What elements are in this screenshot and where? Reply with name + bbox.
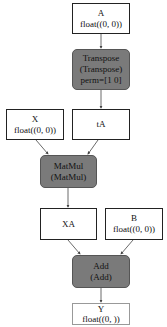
add-op: (Add)	[90, 272, 112, 283]
node-x[interactable]: X float((0, 0))	[6, 109, 64, 140]
transpose-op: (Transpose)	[80, 64, 123, 75]
node-a[interactable]: A float((0, 0))	[72, 3, 130, 34]
edge-ta-matmul	[88, 140, 98, 154]
node-y-type: float((0, ))	[82, 314, 119, 324]
node-x-name: X	[32, 114, 39, 125]
node-ta[interactable]: tA	[72, 109, 130, 140]
transpose-attr: perm=[1 0]	[81, 75, 122, 86]
node-add[interactable]: Add (Add)	[72, 255, 130, 288]
node-xa-name: XA	[62, 219, 75, 230]
edge-xa-add	[68, 240, 80, 254]
node-xa[interactable]: XA	[40, 208, 97, 240]
edge-x-matmul	[36, 140, 48, 154]
matmul-label: MatMul	[54, 161, 84, 172]
matmul-op: (MatMul)	[51, 172, 87, 183]
node-b-name: B	[131, 213, 137, 224]
node-a-name: A	[98, 8, 105, 19]
node-a-type: float((0, 0))	[80, 19, 122, 30]
node-y-name: Y	[98, 304, 105, 314]
node-x-type: float((0, 0))	[14, 125, 56, 136]
node-matmul[interactable]: MatMul (MatMul)	[40, 155, 97, 188]
edge-b-add	[121, 240, 133, 254]
node-b-type: float((0, 0))	[113, 224, 155, 235]
node-transpose[interactable]: Transpose (Transpose) perm=[1 0]	[72, 49, 130, 90]
add-label: Add	[93, 261, 109, 272]
transpose-label: Transpose	[83, 53, 120, 64]
node-ta-name: tA	[97, 119, 106, 130]
node-b[interactable]: B float((0, 0))	[105, 208, 163, 240]
node-y[interactable]: Y float((0, ))	[72, 303, 130, 325]
